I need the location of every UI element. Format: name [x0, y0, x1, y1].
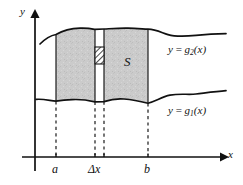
tick-label-a: a — [52, 163, 58, 175]
y-axis-arrow — [30, 9, 39, 18]
hatched-element — [95, 47, 104, 64]
x-axis-label: x — [228, 149, 233, 160]
figure-svg — [0, 0, 243, 185]
region-label-S: S — [124, 55, 131, 68]
upper-curve-label-arg: (x) — [194, 43, 206, 55]
lower-curve-label-eq: = — [176, 104, 182, 116]
upper-curve-label-y: y — [168, 43, 173, 55]
tick-label-delta-x: Δx — [88, 163, 100, 175]
upper-curve-label-eq: = — [176, 43, 182, 55]
lower-curve-label: y = g1(x) — [168, 105, 206, 118]
figure-canvas: y x a Δx b S y = g2(x) y = g1(x) — [0, 0, 243, 185]
upper-curve-label: y = g2(x) — [168, 44, 206, 57]
lower-curve-label-arg: (x) — [194, 104, 206, 116]
dashed-guides — [56, 101, 148, 155]
delta-x-strip — [95, 26, 104, 104]
y-axis-label: y — [20, 6, 25, 17]
lower-curve-label-y: y — [168, 104, 173, 116]
tick-label-b: b — [144, 163, 150, 175]
